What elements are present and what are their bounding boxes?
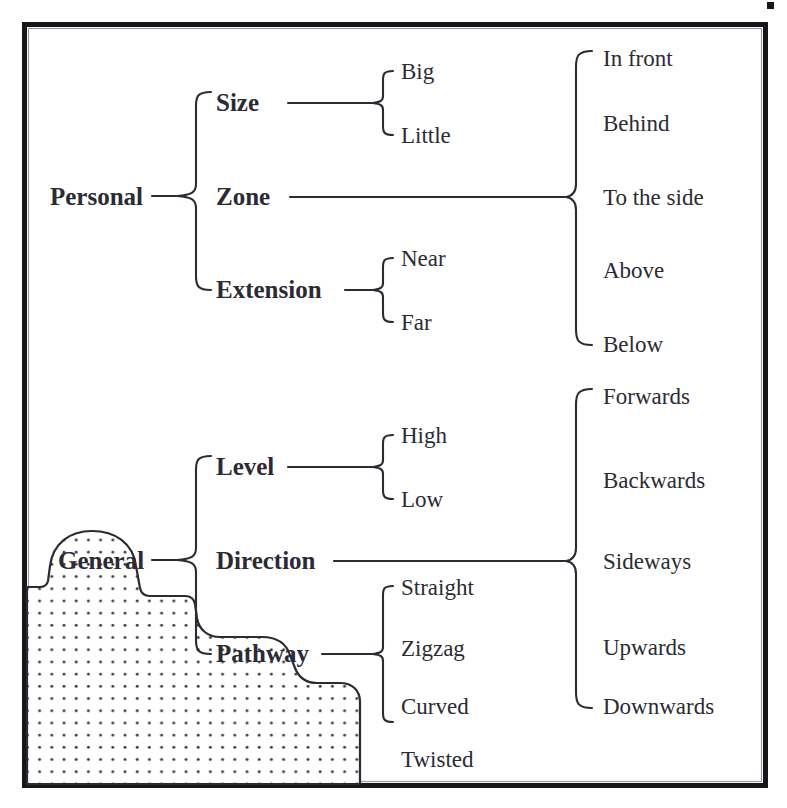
figure-canvas: Personal Size Big Little Zone In front B… — [0, 0, 787, 808]
brace-size-children — [373, 71, 393, 135]
node-label-low: Low — [401, 487, 444, 512]
node-label-forwards: Forwards — [603, 384, 690, 409]
node-label-size: Size — [216, 89, 259, 116]
brace-personal-children — [177, 92, 211, 290]
node-label-general: General — [58, 547, 144, 574]
brace-zone-children — [566, 51, 592, 345]
node-label-zone: Zone — [216, 183, 270, 210]
brace-direction-children — [566, 389, 592, 708]
node-label-little: Little — [401, 123, 451, 148]
node-label-straight: Straight — [401, 575, 474, 600]
node-label-curved: Curved — [401, 694, 469, 719]
node-label-downwards: Downwards — [603, 694, 714, 719]
node-label-backwards: Backwards — [603, 468, 705, 493]
node-label-sideways: Sideways — [603, 549, 691, 574]
node-label-upwards: Upwards — [603, 635, 686, 660]
node-label-far: Far — [401, 310, 432, 335]
node-label-big: Big — [401, 59, 435, 84]
taxonomy-diagram: Personal Size Big Little Zone In front B… — [0, 0, 787, 808]
brace-level-children — [373, 435, 393, 499]
node-label-pathway: Pathway — [216, 640, 310, 667]
brace-extension-children — [373, 258, 393, 322]
node-label-above: Above — [603, 258, 664, 283]
brace-pathway-children — [373, 586, 393, 722]
node-label-extension: Extension — [216, 276, 322, 303]
node-label-near: Near — [401, 246, 446, 271]
register-tick-mark — [767, 2, 774, 9]
node-label-twisted: Twisted — [401, 747, 474, 772]
node-label-level: Level — [216, 453, 274, 480]
node-label-behind: Behind — [603, 111, 670, 136]
node-label-personal: Personal — [50, 183, 143, 210]
node-label-to-the-side: To the side — [603, 185, 704, 210]
node-label-direction: Direction — [216, 547, 316, 574]
node-label-in-front: In front — [603, 46, 673, 71]
node-label-below: Below — [603, 332, 663, 357]
node-label-high: High — [401, 423, 448, 448]
node-label-zigzag: Zigzag — [401, 636, 465, 661]
